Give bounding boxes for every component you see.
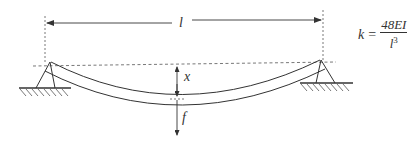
- formula-lhs: k: [358, 27, 364, 43]
- formula-fraction: 48EI l3: [380, 18, 407, 51]
- formula-equals: =: [368, 27, 376, 43]
- formula-denominator: l3: [390, 33, 398, 51]
- right-pin-support: [300, 60, 353, 91]
- reference-line: [33, 62, 336, 66]
- span-label: l: [179, 15, 183, 30]
- deflection-label: x: [183, 69, 191, 84]
- beam-diagram: l: [0, 0, 416, 142]
- stiffness-formula: k = 48EI l3: [358, 18, 407, 51]
- formula-numerator: 48EI: [380, 18, 407, 33]
- left-pin-support: [19, 62, 71, 96]
- force-label: f: [182, 110, 188, 125]
- formula-denominator-exponent: 3: [393, 35, 398, 45]
- span-dimension: [47, 20, 321, 23]
